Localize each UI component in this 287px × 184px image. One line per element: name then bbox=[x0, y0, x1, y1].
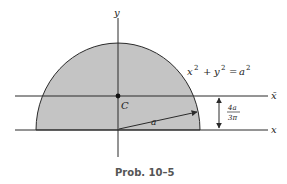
centroid-point bbox=[116, 94, 121, 99]
dimension-label: 4a 3π bbox=[227, 104, 240, 122]
xbar-axis-label: x̄ bbox=[271, 90, 277, 101]
x-axis-label: x bbox=[271, 124, 277, 135]
svg-text:a: a bbox=[239, 66, 245, 77]
svg-text:2: 2 bbox=[246, 64, 250, 72]
figure-caption: Prob. 10–5 bbox=[115, 167, 174, 178]
svg-text:x: x bbox=[187, 66, 193, 77]
svg-text:2: 2 bbox=[221, 64, 225, 72]
svg-text:+: + bbox=[203, 66, 211, 77]
centroid-label: C bbox=[121, 100, 129, 111]
svg-text:4a: 4a bbox=[227, 104, 237, 112]
svg-text:y: y bbox=[213, 66, 220, 77]
circle-equation: x 2 + y 2 = a 2 bbox=[187, 64, 250, 77]
svg-text:2: 2 bbox=[194, 64, 198, 72]
radius-label: a bbox=[151, 117, 156, 127]
y-axis-label: y bbox=[113, 7, 120, 18]
semicircle-centroid-diagram: y x x̄ C a x 2 + y 2 = a 2 4a 3π Prob. 1… bbox=[0, 0, 287, 184]
svg-text:=: = bbox=[229, 66, 237, 77]
svg-text:3π: 3π bbox=[228, 114, 237, 122]
